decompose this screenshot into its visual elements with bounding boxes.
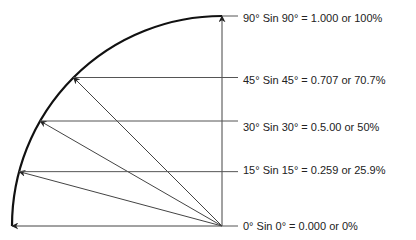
sine-quarter-circle-diagram [0, 0, 416, 240]
radius-arrow-30 [40, 121, 222, 226]
angle-label-45: 45° Sin 45° = 0.707 or 70.7% [243, 74, 385, 86]
angle-label-15: 15° Sin 15° = 0.259 or 25.9% [243, 164, 385, 176]
radius-arrow-15 [19, 172, 222, 226]
radius-arrow-45 [74, 78, 222, 226]
angle-label-30: 30° Sin 30° = 0.5.00 or 50% [243, 121, 379, 133]
angle-label-0: 0° Sin 0° = 0.000 or 0% [243, 220, 358, 232]
angle-label-90: 90° Sin 90° = 1.000 or 100% [243, 12, 382, 24]
